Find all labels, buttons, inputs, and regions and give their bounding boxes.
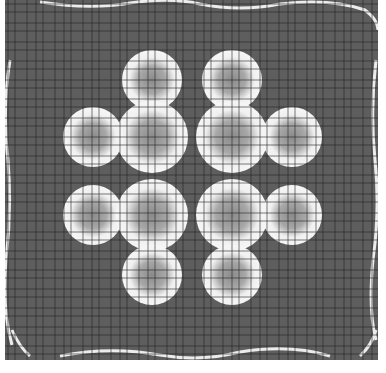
blob-lobe <box>122 245 182 305</box>
field-background <box>5 0 378 360</box>
pattern-field <box>0 0 386 373</box>
